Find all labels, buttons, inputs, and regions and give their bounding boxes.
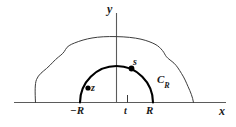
diagram-canvas xyxy=(0,0,236,127)
point-z-marker xyxy=(85,85,90,90)
contour-CR-subscript: R xyxy=(164,81,169,90)
x-axis-label: x xyxy=(219,105,225,117)
axis-label-negative-R: −R xyxy=(70,105,84,116)
y-axis-label: y xyxy=(107,3,112,15)
contour-diagram-figure: y x −R t R s z CR xyxy=(0,0,236,127)
outer-contour-curve xyxy=(35,37,193,103)
axis-label-R: R xyxy=(146,105,153,116)
point-z-label: z xyxy=(91,83,95,93)
point-s-label: s xyxy=(133,57,137,67)
contour-CR-label: CR xyxy=(157,74,170,88)
axis-label-t: t xyxy=(124,106,127,116)
